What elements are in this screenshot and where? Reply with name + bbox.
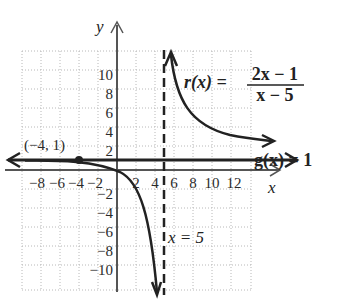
svg-text:6: 6	[106, 105, 114, 121]
svg-text:8: 8	[106, 86, 114, 102]
asymptote-label: x = 5	[167, 228, 204, 247]
svg-text:2: 2	[132, 175, 140, 191]
r-denominator: x − 5	[256, 85, 293, 105]
svg-text:−6: −6	[49, 175, 65, 191]
svg-text:12: 12	[227, 175, 242, 191]
axes	[5, 22, 280, 292]
svg-text:4: 4	[106, 124, 114, 140]
svg-text:−8: −8	[29, 175, 45, 191]
point-neg4-1	[75, 156, 83, 164]
graph: 10 8 6 4 2 −2 −4 −6 −8 −10 −8 −6 −4 −2 2…	[0, 0, 351, 302]
r-numerator: 2x − 1	[252, 64, 298, 84]
svg-text:4: 4	[151, 175, 159, 191]
r-function-name: r(x) =	[184, 72, 227, 93]
svg-text:−6: −6	[97, 224, 113, 240]
svg-text:2: 2	[106, 143, 114, 159]
svg-text:−4: −4	[97, 205, 113, 221]
svg-text:8: 8	[189, 175, 197, 191]
svg-text:−10: −10	[90, 262, 113, 278]
y-tick-labels: 10 8 6 4 2 −2 −4 −6 −8 −10	[90, 67, 114, 278]
svg-text:10: 10	[98, 67, 113, 83]
point-label: (−4, 1)	[24, 137, 65, 154]
svg-text:−4: −4	[68, 175, 84, 191]
x-tick-labels: −8 −6 −4 −2 2 4 6 8 10 12	[29, 175, 241, 191]
svg-text:−2: −2	[87, 175, 103, 191]
svg-text:10: 10	[205, 175, 220, 191]
x-axis-label: x	[267, 178, 276, 197]
svg-text:6: 6	[170, 175, 178, 191]
svg-text:−8: −8	[97, 243, 113, 259]
y-axis-label: y	[94, 17, 104, 36]
g-function-label: g(x) = 1	[254, 150, 312, 171]
